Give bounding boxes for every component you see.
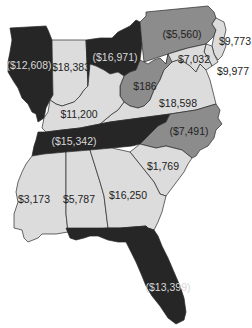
label-illinois: ($12,608) [7, 59, 52, 71]
label-pennsylvania: ($5,560) [162, 28, 201, 40]
label-maryland: $7,032 [178, 53, 210, 65]
label-delaware: $9,977 [217, 65, 249, 77]
choropleth-map: ($12,608) $18,383 ($16,971) ($5,560) $9,… [0, 0, 252, 328]
label-west-virginia: $186 [133, 80, 157, 92]
label-ohio: ($16,971) [93, 51, 138, 63]
label-tennessee: ($15,342) [52, 135, 97, 147]
state-florida[interactable] [66, 226, 186, 324]
label-virginia: $18,598 [159, 97, 197, 109]
label-new-jersey: $9,773 [219, 35, 251, 47]
label-mississippi: $3,173 [18, 193, 50, 205]
label-florida: ($13,399) [146, 281, 191, 293]
state-illinois[interactable] [8, 26, 53, 122]
label-alabama: $5,787 [63, 193, 95, 205]
label-georgia: $16,250 [109, 189, 147, 201]
label-south-carolina: $1,769 [147, 160, 179, 172]
label-north-carolina: ($7,491) [169, 125, 208, 137]
label-indiana: $18,383 [52, 61, 90, 73]
label-kentucky: $11,200 [60, 108, 97, 120]
